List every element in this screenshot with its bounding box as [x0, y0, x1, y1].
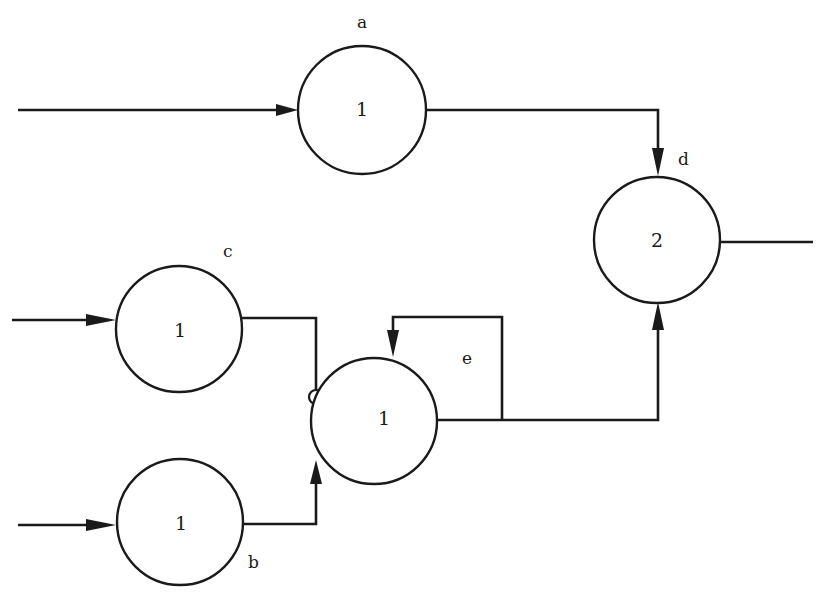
node-c-label: c: [223, 241, 233, 261]
edge-a-to-d: [426, 110, 658, 160]
node-e-label: e: [462, 348, 472, 368]
node-e: [311, 358, 437, 484]
node-d-threshold: 2: [651, 229, 663, 251]
arrow-into-e-bottom: [310, 460, 322, 484]
edge-b-to-e: [243, 478, 316, 524]
node-e-threshold: 1: [378, 407, 390, 429]
edge-e-to-d: [437, 318, 658, 420]
arrow-into-a: [276, 104, 298, 116]
node-d-label: d: [678, 149, 689, 169]
node-c-threshold: 1: [174, 319, 186, 341]
node-a-label: a: [357, 12, 367, 32]
arrow-into-d-top: [652, 148, 664, 176]
node-b-label: b: [248, 552, 259, 572]
arrow-into-e-top: [387, 330, 399, 357]
arrow-into-b: [86, 519, 116, 531]
neuron-network-diagram: a 1 d 2 c 1 b 1 e 1: [0, 0, 832, 597]
arrow-into-c: [86, 314, 116, 326]
arrow-into-d-bottom: [652, 302, 664, 330]
edge-c-to-e-inhibitory: [242, 318, 316, 391]
node-b-threshold: 1: [175, 512, 187, 534]
node-a-threshold: 1: [356, 98, 368, 120]
